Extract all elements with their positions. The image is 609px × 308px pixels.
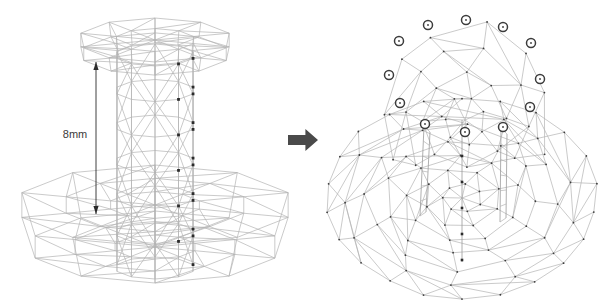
dimension-label: 8mm [63,128,87,140]
transform-arrow-icon [288,129,318,151]
top-flange-mesh [81,18,229,75]
diagram-canvas: 8mm [0,0,609,308]
transform-arrow [288,129,318,151]
right-figure-result-mesh [326,16,598,300]
hole-region-mesh [384,22,544,262]
left-figure-source-mesh: 8mm [22,18,288,283]
mesh-diagram-svg: 8mm [0,0,609,308]
cylinder-body-mesh [117,44,193,279]
dimension-annotation: 8mm [59,62,99,214]
